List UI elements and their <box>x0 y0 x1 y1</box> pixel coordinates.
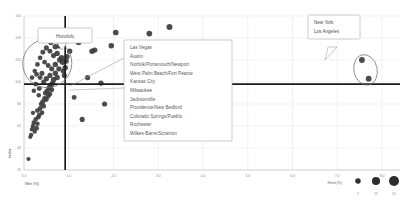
data-point <box>36 93 41 98</box>
y-tick-label: 140 <box>15 36 21 40</box>
data-point <box>46 63 51 68</box>
city-list-item: Jacksonville <box>130 97 156 102</box>
data-point <box>32 69 37 74</box>
data-point <box>72 95 77 100</box>
city-list-item: Providence/New Bedford <box>130 105 182 110</box>
data-point <box>53 62 58 67</box>
data-point <box>54 75 60 81</box>
city-list-item: Colorado Springs/Pueblo <box>130 114 183 119</box>
data-point <box>29 133 33 137</box>
size-legend-title: Herd (%) <box>328 181 342 185</box>
data-point <box>39 110 44 115</box>
city-list-item: Austin <box>130 54 143 59</box>
data-point <box>30 75 35 80</box>
city-list-item: Las Vegas <box>130 45 153 50</box>
size-legend-value: 15 <box>374 192 378 196</box>
data-point <box>166 24 172 30</box>
x-tick-label: 7.0 <box>335 174 340 178</box>
data-point <box>102 101 107 106</box>
size-legend-dot <box>355 178 360 183</box>
y-tick-label: 120 <box>15 58 21 62</box>
city-list-item: Kansas City <box>130 79 156 84</box>
y-tick-label: 40 <box>17 146 21 150</box>
data-point <box>35 62 40 67</box>
data-point <box>62 73 67 78</box>
x-tick-label: 6.0 <box>290 174 295 178</box>
data-point <box>47 73 52 78</box>
data-point <box>366 76 372 82</box>
callout-coastal-line-0: New York <box>314 20 334 25</box>
x-tick-label: 3.0 <box>156 174 161 178</box>
y-tick-label: 60 <box>17 124 21 128</box>
data-point <box>31 111 35 115</box>
data-point <box>359 57 365 63</box>
data-point <box>39 71 44 76</box>
size-legend-value: 5 <box>357 192 359 196</box>
data-point <box>41 104 46 109</box>
data-point <box>146 31 152 37</box>
scatter-chart-figure: 16014012010080604020 0.01.02.03.04.05.06… <box>0 0 411 204</box>
data-point <box>80 117 85 122</box>
city-list-item: Rochester <box>130 122 152 127</box>
city-list-item: Milwaukee <box>130 88 153 93</box>
city-list-item: Wilkes-Barre/Scranton <box>130 131 177 136</box>
y-tick-label: 80 <box>17 102 21 106</box>
plot-canvas: 16014012010080604020 0.01.02.03.04.05.06… <box>0 0 411 204</box>
data-point <box>35 122 40 127</box>
city-list-item: West Palm Beach/Fort Pearce <box>130 71 193 76</box>
data-point <box>26 157 30 161</box>
data-point <box>54 51 59 56</box>
x-tick-label: 4.0 <box>201 174 206 178</box>
data-point <box>38 55 43 60</box>
callout-coastal-line-1: Los Angeles <box>314 29 340 34</box>
y-tick-label: 160 <box>15 14 21 18</box>
x-tick-label: 1.0 <box>66 174 71 178</box>
x-tick-label: 5.0 <box>245 174 250 178</box>
data-point <box>63 58 68 63</box>
data-point <box>44 45 49 50</box>
y-tick-label: 100 <box>15 80 21 84</box>
data-point <box>48 92 53 97</box>
data-point <box>40 50 45 55</box>
x-tick-label: 2.0 <box>111 174 116 178</box>
callout-coastal-box <box>308 15 360 39</box>
city-list-callout[interactable]: Las VegasAustinNorfolk/Portsmouth/Newpor… <box>124 40 232 141</box>
x-tick-label: 8.0 <box>380 174 385 178</box>
data-point <box>56 66 61 71</box>
data-point <box>113 30 119 36</box>
y-tick-label: 20 <box>17 168 21 172</box>
data-point <box>42 60 47 65</box>
data-point <box>109 43 115 49</box>
callout-honolulu-label: Honolulu <box>56 34 75 39</box>
data-point <box>34 126 39 131</box>
data-point <box>38 75 43 80</box>
city-list-item: Norfolk/Portsmouth/Newport <box>130 62 190 67</box>
data-point <box>32 89 37 94</box>
data-point <box>49 87 54 92</box>
size-legend-dot <box>389 176 399 186</box>
size-legend-dot <box>372 177 380 185</box>
size-legend-value: 25 <box>392 192 396 196</box>
x-axis-title: Wet (%) <box>25 181 40 186</box>
x-tick-label: 0.0 <box>22 174 27 178</box>
data-point <box>92 47 97 52</box>
y-axis-title: Index <box>7 148 12 158</box>
